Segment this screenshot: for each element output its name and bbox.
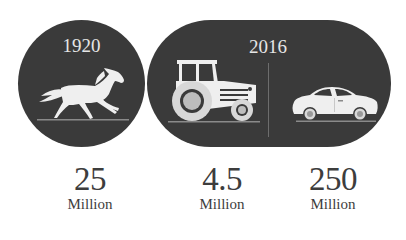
stat-value: 25 <box>46 163 134 195</box>
horse-icon <box>35 66 130 122</box>
stat-horse: 25 Million <box>46 163 134 212</box>
stat-car: 250 Million <box>286 163 380 212</box>
year-label-1920: 1920 <box>18 36 145 55</box>
stat-unit: Million <box>46 196 134 212</box>
stat-unit: Million <box>175 196 269 212</box>
stat-value: 250 <box>286 163 380 195</box>
car-icon <box>290 84 380 122</box>
divider-line <box>268 63 269 137</box>
stat-tractor: 4.5 Million <box>175 163 269 212</box>
stat-value: 4.5 <box>175 163 269 195</box>
year-label-2016: 2016 <box>218 37 318 56</box>
tractor-icon <box>168 59 260 123</box>
stat-unit: Million <box>286 196 380 212</box>
